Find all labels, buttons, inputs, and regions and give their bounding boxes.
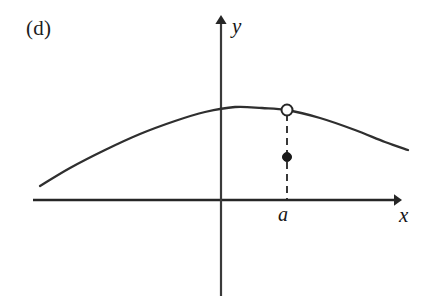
panel-label: (d) [26, 16, 51, 41]
function-curve [40, 107, 408, 186]
figure-panel-d: (d) y x a [0, 0, 430, 303]
filled-point-marker [283, 153, 292, 162]
y-axis-arrow-icon [215, 15, 226, 24]
x-axis-label: x [399, 203, 408, 228]
y-axis-label: y [232, 14, 241, 39]
x-axis [33, 194, 402, 206]
graph-canvas [0, 0, 430, 303]
open-circle-marker [282, 105, 293, 116]
y-axis [215, 15, 226, 296]
x-tick-label-a: a [278, 203, 288, 226]
